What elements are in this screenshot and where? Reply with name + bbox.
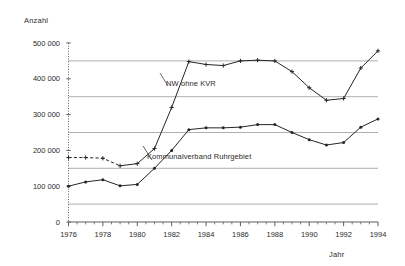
gridlines-group: [69, 61, 379, 204]
series-label-kommunalverband-ruhrgebiet: Kommunalverband Ruhrgebiet: [147, 152, 251, 161]
data-point-marker-dot: [239, 126, 242, 129]
y-tick-label: 200 000: [14, 146, 60, 155]
x-axis-title: Jahr: [329, 250, 344, 259]
data-point-marker-dot: [325, 144, 328, 147]
series-line-0: [120, 51, 378, 166]
x-tick-label: 1980: [119, 230, 155, 239]
y-tick-label: 500 000: [14, 39, 60, 48]
x-tick-label: 1988: [257, 230, 293, 239]
data-point-marker-dot: [256, 123, 259, 126]
x-tick-label: 1986: [222, 230, 258, 239]
x-tick-label: 1992: [326, 230, 362, 239]
y-tick-label: 300 000: [14, 110, 60, 119]
data-point-marker-dot: [84, 180, 87, 183]
series-label-nw-ohne-kvr: NW ohne KVR: [166, 79, 216, 88]
data-series-group: [66, 49, 380, 188]
data-point-marker-dot: [153, 167, 156, 170]
y-tick-label: 0: [14, 218, 60, 227]
x-tick-label: 1978: [85, 230, 121, 239]
x-tick-label: 1976: [51, 230, 87, 239]
data-point-marker-dot: [205, 126, 208, 129]
data-point-marker-dot: [119, 184, 122, 187]
y-tick-label: 400 000: [14, 74, 60, 83]
data-point-marker-dot: [308, 138, 311, 141]
x-axis-ticks: [69, 222, 379, 226]
data-point-marker-dot: [101, 178, 104, 181]
x-tick-label: 1982: [154, 230, 190, 239]
data-point-marker-dot: [377, 117, 380, 120]
data-point-marker-dot: [291, 131, 294, 134]
data-point-marker-dot: [67, 185, 70, 188]
x-tick-label: 1984: [188, 230, 224, 239]
data-point-marker-dot: [187, 128, 190, 131]
series-line-dashed-0: [69, 158, 121, 166]
chart-figure: Anzahl Jahr 0100 000200 000300 000400 00…: [0, 0, 405, 266]
x-tick-label: 1994: [360, 230, 396, 239]
data-point-marker-dot: [222, 126, 225, 129]
data-point-marker-dot: [359, 126, 362, 129]
x-tick-label: 1990: [291, 230, 327, 239]
y-tick-label: 100 000: [14, 182, 60, 191]
data-point-marker-dot: [273, 123, 276, 126]
data-point-marker-dot: [342, 141, 345, 144]
y-axis-title: Anzahl: [24, 16, 48, 25]
data-point-marker-dot: [136, 183, 139, 186]
chart-plot-area: [0, 0, 405, 266]
